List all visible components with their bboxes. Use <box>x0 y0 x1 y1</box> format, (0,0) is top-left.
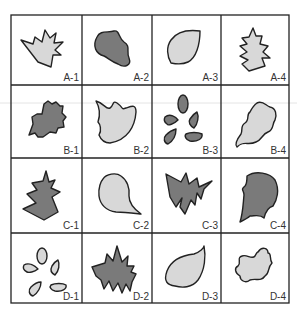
label-d1: D-1 <box>63 291 80 302</box>
leaf-a4-icon <box>240 28 270 71</box>
leaf-a1-icon <box>21 30 63 67</box>
label-a1: A-1 <box>63 72 79 83</box>
label-c2: C-2 <box>133 220 150 231</box>
leaf-a3-icon <box>168 31 200 64</box>
label-a2: A-2 <box>133 72 149 83</box>
leaf-d4-icon <box>236 248 272 281</box>
label-d3: D-3 <box>202 291 219 302</box>
label-b4: B-4 <box>270 145 286 156</box>
label-b3: B-3 <box>202 145 218 156</box>
label-a3: A-3 <box>202 72 218 83</box>
leaf-c4-icon <box>240 173 278 222</box>
leaf-b4-icon <box>236 102 276 147</box>
leaf-d3-icon <box>166 246 205 287</box>
leaf-grid-figure: A-1 A-2 A-3 A-4 B-1 B-2 B-3 B-4 C-1 C-2 … <box>0 0 297 314</box>
leaf-b2-icon <box>96 101 136 143</box>
leaf-b1-icon <box>29 101 66 137</box>
label-b1: B-1 <box>63 145 79 156</box>
leaf-c1-icon <box>23 171 60 220</box>
leaf-c3-icon <box>166 173 212 214</box>
label-c4: C-4 <box>270 220 287 231</box>
label-d2: D-2 <box>133 291 150 302</box>
label-c3: C-3 <box>202 220 219 231</box>
label-b2: B-2 <box>133 145 149 156</box>
leaf-d1-icon <box>23 248 66 296</box>
label-d4: D-4 <box>270 291 287 302</box>
leaf-b3-icon <box>164 95 202 144</box>
leaf-a2-icon <box>95 31 130 66</box>
label-c1: C-1 <box>63 220 80 231</box>
leaf-c2-icon <box>99 174 141 214</box>
leaf-d2-icon <box>92 246 136 293</box>
label-a4: A-4 <box>270 72 286 83</box>
